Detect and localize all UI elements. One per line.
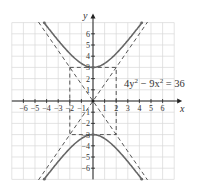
x-tick-label: 6 [161, 104, 165, 113]
hyperbola-graph: −6−5−4−3−2−1123456654321−1−2−3−4−5−6 x y… [0, 0, 200, 193]
x-tick-label: 2 [114, 104, 118, 113]
y-tick-label: 6 [86, 30, 90, 39]
x-tick-label: −4 [42, 104, 51, 113]
y-tick-label: 2 [86, 75, 90, 84]
y-tick-label: 1 [86, 86, 90, 95]
x-tick-label: 3 [126, 104, 130, 113]
y-tick-label: 3 [86, 63, 90, 72]
x-tick-label: 5 [149, 104, 153, 113]
x-tick-label: −6 [19, 104, 28, 113]
axes [12, 14, 182, 180]
x-axis-label: x [179, 103, 185, 114]
equation-label: 4y2 − 9x2 = 36 [124, 77, 185, 89]
y-tick-label: −1 [81, 108, 90, 117]
x-tick-label: −2 [66, 104, 75, 113]
x-tick-label: −3 [54, 104, 63, 113]
x-tick-label: −5 [31, 104, 40, 113]
y-tick-label: 5 [86, 41, 90, 50]
y-tick-label: −5 [81, 153, 90, 162]
y-tick-label: −6 [81, 164, 90, 173]
y-tick-label: −3 [81, 131, 90, 140]
x-tick-label: 1 [103, 104, 107, 113]
y-tick-label: 4 [86, 52, 90, 61]
y-tick-label: −2 [81, 119, 90, 128]
y-axis-label: y [82, 10, 88, 21]
x-tick-label: 4 [137, 104, 141, 113]
y-tick-label: −4 [81, 142, 90, 151]
